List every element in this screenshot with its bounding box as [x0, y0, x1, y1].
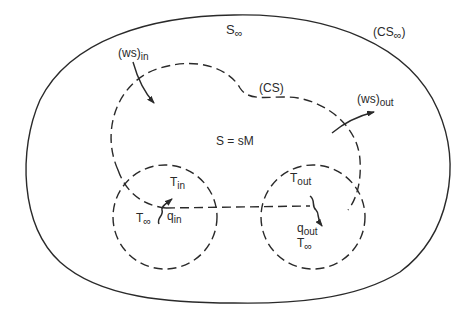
t-inf-left-sub: ∞ — [143, 215, 151, 227]
control-surface-diagram — [0, 0, 468, 317]
s-inf-sub: ∞ — [235, 27, 243, 39]
q-in-main: q — [167, 209, 174, 223]
label-t-out: Tout — [290, 172, 311, 187]
label-ws-in: (ws)in — [118, 47, 148, 62]
q-in-sub: in — [174, 214, 182, 225]
label-ws-out: (ws)out — [357, 93, 394, 108]
label-q-in: qin — [167, 210, 181, 225]
label-t-inf-right: T∞ — [297, 237, 312, 252]
s-inf-main: S — [226, 22, 235, 37]
inlet-circle — [113, 165, 217, 269]
label-entropy-equation: S = sM — [216, 135, 254, 147]
q-out-sub: out — [304, 226, 318, 237]
cs-inf-close: ) — [402, 25, 406, 39]
outer-boundary-cs-inf — [26, 15, 450, 303]
q-out-main: q — [297, 221, 304, 235]
label-s-infinity: S∞ — [226, 23, 243, 39]
work-out-arrow — [332, 112, 374, 133]
work-in-arrow — [133, 62, 154, 103]
cs-inf-open: (CS — [373, 25, 394, 39]
ws-in-sub: in — [141, 51, 149, 62]
ws-in-main: (ws) — [118, 46, 141, 60]
cs-inf-sub: ∞ — [394, 29, 402, 41]
ws-out-sub: out — [380, 97, 394, 108]
outlet-circle — [261, 165, 365, 269]
label-t-in: Tin — [170, 176, 185, 191]
t-out-sub: out — [297, 176, 311, 187]
label-q-out: qout — [297, 222, 318, 237]
label-t-inf-left: T∞ — [136, 212, 151, 227]
t-inf-right-sub: ∞ — [304, 240, 312, 252]
label-cs: (CS) — [259, 82, 284, 94]
label-cs-infinity: (CS∞) — [373, 26, 406, 41]
ws-out-main: (ws) — [357, 92, 380, 106]
t-in-sub: in — [177, 180, 185, 191]
